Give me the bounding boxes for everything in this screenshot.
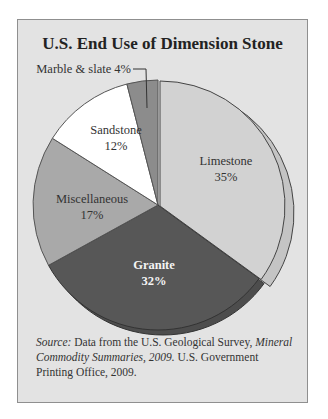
source-text-1: Data from the U.S. Geological Survey, (71, 336, 255, 348)
label-misc-pct: 17% (81, 208, 104, 222)
label-limestone-pct: 35% (215, 170, 238, 184)
label-marble-slate: Marble & slate 4% (36, 62, 131, 76)
source-label: Source: (36, 336, 71, 348)
label-sandstone-name: Sandstone (90, 123, 142, 137)
label-limestone-name: Limestone (200, 154, 253, 168)
label-misc-name: Miscellaneous (56, 192, 128, 206)
label-sandstone-pct: 12% (105, 139, 128, 153)
source-note: Source: Data from the U.S. Geological Su… (36, 335, 298, 380)
label-granite-pct: 32% (142, 274, 167, 288)
label-granite-name: Granite (133, 258, 175, 272)
